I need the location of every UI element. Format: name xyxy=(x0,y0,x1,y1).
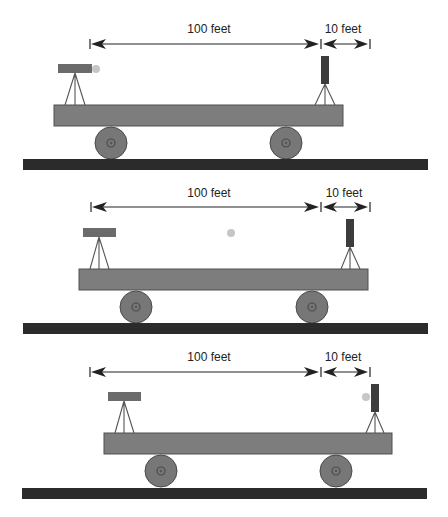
wheel-left xyxy=(120,291,152,323)
wheel-left xyxy=(145,455,177,487)
tripod-icon xyxy=(90,237,109,269)
target-on-tripod xyxy=(366,384,384,433)
rail-track xyxy=(22,488,427,499)
dimension-label-short: 10 feet xyxy=(326,186,363,200)
wheel-right xyxy=(320,455,352,487)
target-on-tripod xyxy=(315,56,335,105)
dimension-10-feet: 10 feet xyxy=(321,186,370,212)
light-pulse-dot xyxy=(227,229,235,237)
panel-3: 100 feet 10 feet xyxy=(22,350,427,499)
tripod-icon xyxy=(65,73,85,105)
dimension-100-feet: 100 feet xyxy=(91,186,319,212)
laser-device xyxy=(108,392,141,401)
light-clock-cart-diagram: 100 feet 10 feet xyxy=(0,0,448,517)
cart-platform xyxy=(79,269,368,290)
dimension-10-feet: 10 feet xyxy=(321,22,370,49)
panel-2: 100 feet 10 feet xyxy=(23,186,428,334)
laser-device xyxy=(83,228,116,237)
target-on-tripod xyxy=(341,219,360,269)
dimension-label-short: 10 feet xyxy=(325,22,362,36)
cart-platform xyxy=(104,433,392,454)
tripod-icon xyxy=(115,401,134,433)
wheel-right xyxy=(270,127,302,159)
rail-track xyxy=(23,159,428,170)
dimension-label-long: 100 feet xyxy=(187,22,231,36)
tripod-icon xyxy=(341,247,360,269)
rail-track xyxy=(23,323,428,334)
dimension-label-short: 10 feet xyxy=(325,350,362,364)
dimension-label-long: 100 feet xyxy=(187,186,231,200)
panel-1: 100 feet 10 feet xyxy=(23,22,428,170)
wheel-left xyxy=(95,127,127,159)
laser-device xyxy=(58,64,92,73)
dimension-10-feet: 10 feet xyxy=(321,350,370,377)
target-device xyxy=(321,56,329,84)
wheel-right xyxy=(296,291,328,323)
dimension-100-feet: 100 feet xyxy=(90,22,319,49)
target-device xyxy=(371,384,379,412)
tripod-icon xyxy=(366,412,384,433)
tripod-icon xyxy=(315,84,335,105)
target-device xyxy=(346,219,354,247)
cart-platform xyxy=(54,105,343,126)
laser-on-tripod xyxy=(83,228,116,269)
light-pulse-dot xyxy=(92,65,100,73)
dimension-label-long: 100 feet xyxy=(187,350,231,364)
light-pulse-dot xyxy=(362,393,370,401)
laser-on-tripod xyxy=(58,64,92,105)
dimension-100-feet: 100 feet xyxy=(90,350,319,377)
laser-on-tripod xyxy=(108,392,141,433)
